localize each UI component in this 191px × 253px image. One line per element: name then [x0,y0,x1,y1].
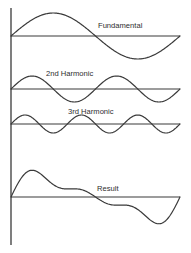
wave-label-3: 3rd Harmonic [68,107,114,116]
figure-background [0,0,191,253]
harmonic-synthesis-figure: Fundamental2nd Harmonic3rd HarmonicResul… [0,0,191,253]
wave-label-2: 2nd Harmonic [46,69,93,78]
wave-label-4: Result [97,184,119,193]
wave-label-1: Fundamental [98,21,143,30]
